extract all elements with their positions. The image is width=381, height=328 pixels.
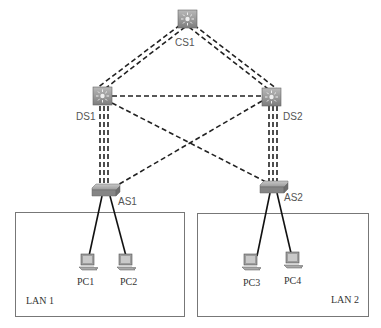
access-switch-as1-icon[interactable] [92, 184, 120, 196]
ds1-label: DS1 [76, 111, 95, 122]
distribution-switch-ds2-icon[interactable] [262, 88, 281, 106]
pc4-icon[interactable] [284, 252, 303, 268]
network-topology-diagram: CS1 DS1 DS2 AS1 AS2 PC1 PC2 PC3 PC4 LAN … [0, 0, 381, 328]
lan2-label: LAN 2 [331, 294, 359, 305]
pc3-icon[interactable] [242, 254, 261, 270]
pc3-label: PC3 [243, 277, 260, 288]
lan1-label: LAN 1 [26, 295, 54, 306]
link-as2-pc3 [257, 193, 270, 256]
link-ds2-as2 [269, 106, 277, 181]
pc4-label: PC4 [284, 275, 301, 286]
pc2-label: PC2 [120, 276, 137, 287]
as1-label: AS1 [118, 196, 137, 207]
link-ds1-as1 [100, 106, 108, 185]
diagram-canvas [0, 0, 381, 328]
pc1-label: PC1 [77, 276, 94, 287]
core-switch-cs1-icon[interactable] [178, 10, 197, 28]
pc2-icon[interactable] [117, 254, 136, 270]
distribution-switch-ds1-icon[interactable] [93, 87, 112, 105]
cs1-label: CS1 [175, 37, 194, 48]
pc1-icon[interactable] [79, 254, 98, 270]
link-ds2-as1 [116, 101, 262, 186]
ds2-label: DS2 [283, 111, 302, 122]
link-cs1-ds2 [189, 25, 277, 92]
link-as1-pc1 [89, 196, 102, 256]
as2-label: AS2 [284, 192, 303, 203]
link-cs1-ds1 [97, 25, 185, 91]
